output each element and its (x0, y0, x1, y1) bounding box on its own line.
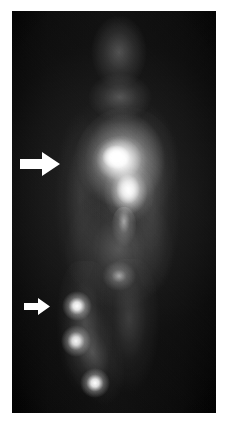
scintigram-image (12, 11, 216, 413)
figure-page (0, 0, 235, 425)
detector-field-background (12, 11, 216, 413)
